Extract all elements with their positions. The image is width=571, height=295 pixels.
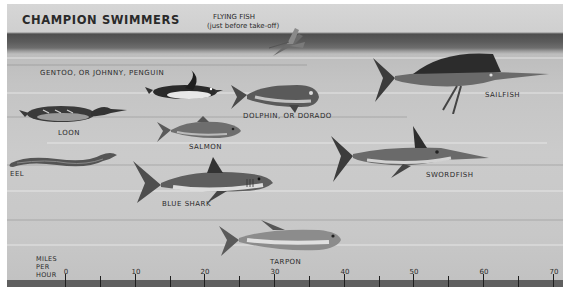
tarpon-label: TARPON <box>270 258 301 266</box>
water-streak <box>7 64 307 66</box>
loon-icon <box>19 101 129 127</box>
blue-shark-label: BLUE SHARK <box>162 200 211 208</box>
sailfish-label: SAILFISH <box>485 91 520 99</box>
scale-tick-minor <box>379 276 380 287</box>
scale-label-70: 70 <box>550 268 559 276</box>
flying-fish-label-line1: FLYING FISH <box>207 13 279 22</box>
chart-title: CHAMPION SWIMMERS <box>22 13 180 27</box>
scale-tick-minor <box>239 276 240 287</box>
dolphin-icon <box>231 81 323 113</box>
scale-label-60: 60 <box>480 268 489 276</box>
blue-shark-icon <box>133 157 275 205</box>
scale-tick-minor <box>448 276 449 287</box>
scale-tick-minor <box>100 276 101 287</box>
loon-label: LOON <box>58 129 80 137</box>
scale-unit-line3: HOUR <box>36 271 57 279</box>
illustration-plate: CHAMPION SWIMMERS FLYING FISH (just befo… <box>7 4 563 287</box>
penguin-icon <box>145 70 225 104</box>
scale-label-0: 0 <box>64 268 68 276</box>
scale-label-30: 30 <box>271 268 280 276</box>
scale-unit-line1: MILES <box>36 255 57 263</box>
water-streak <box>7 190 563 192</box>
scale-unit-line2: PER <box>36 263 57 271</box>
salmon-icon <box>157 116 243 146</box>
scale-unit-label: MILES PER HOUR <box>36 255 57 279</box>
flying-fish-icon <box>269 26 309 60</box>
eel-icon <box>7 147 119 169</box>
scale-tick-minor <box>518 276 519 287</box>
eel-label: EEL <box>10 170 24 178</box>
scale-label-20: 20 <box>201 268 210 276</box>
speed-scale-bar <box>7 280 563 287</box>
scale-label-50: 50 <box>410 268 419 276</box>
salmon-label: SALMON <box>189 143 222 151</box>
sailfish-icon <box>373 52 551 114</box>
scale-label-10: 10 <box>132 268 141 276</box>
scale-label-40: 40 <box>341 268 350 276</box>
dolphin-label: DOLPHIN, OR DORADO <box>243 112 332 120</box>
tarpon-icon <box>219 218 345 258</box>
scale-tick-minor <box>309 276 310 287</box>
scale-tick-minor <box>170 276 171 287</box>
swordfish-label: SWORDFISH <box>426 171 473 179</box>
